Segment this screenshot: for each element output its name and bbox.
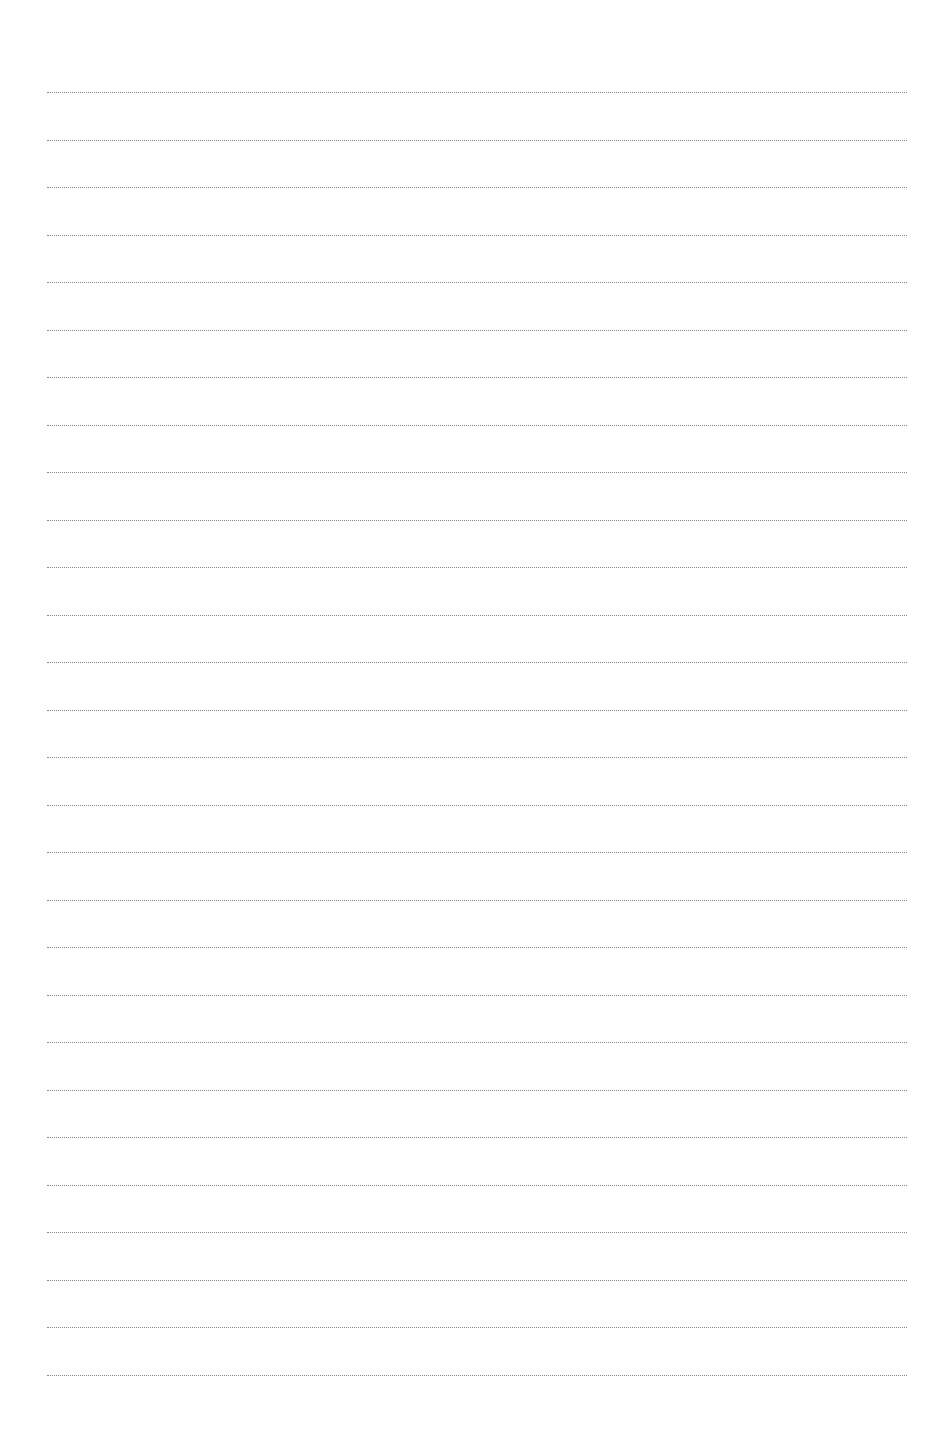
dotted-rule-line [47,235,907,236]
dotted-rule-line [47,852,907,853]
dotted-rule-line [47,567,907,568]
dotted-rule-line [47,900,907,901]
dotted-rule-line [47,472,907,473]
dotted-rule-line [47,282,907,283]
dotted-rule-line [47,377,907,378]
dotted-rule-line [47,1232,907,1233]
dotted-rule-line [47,757,907,758]
dotted-rule-line [47,92,907,93]
dotted-rule-line [47,995,907,996]
dotted-rule-line [47,1137,907,1138]
dotted-rule-line [47,947,907,948]
dotted-rule-line [47,1090,907,1091]
dotted-rule-line [47,1185,907,1186]
dotted-rule-line [47,662,907,663]
dotted-rule-line [47,140,907,141]
lined-page [0,0,951,1450]
dotted-rule-line [47,187,907,188]
dotted-rule-line [47,1375,907,1376]
dotted-rule-line [47,425,907,426]
dotted-rule-line [47,615,907,616]
dotted-rule-line [47,1280,907,1281]
dotted-rule-line [47,330,907,331]
dotted-rule-line [47,710,907,711]
dotted-rule-line [47,1042,907,1043]
dotted-rule-line [47,520,907,521]
dotted-rule-line [47,1327,907,1328]
dotted-rule-line [47,805,907,806]
